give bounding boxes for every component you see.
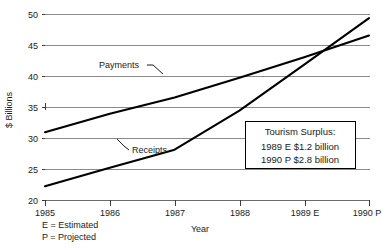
x-tick-label-1987: 1987: [165, 208, 185, 218]
callout-line-1989: 1989 E $1.2 billion: [261, 141, 339, 152]
series-label-payments: Payments: [99, 60, 140, 70]
y-axis-title: $ Billions: [4, 91, 14, 128]
x-tick-label-1990p: 1990 P: [353, 208, 382, 218]
x-tick-label-1985: 1985: [35, 208, 55, 218]
callout-line-1990: 1990 P $2.8 billion: [261, 154, 339, 165]
footnote-projected: P = Projected: [42, 232, 96, 242]
callout-title: Tourism Surplus:: [265, 126, 336, 137]
footnote-estimated: E = Estimated: [42, 220, 98, 230]
y-tick-labels: 50 45 40 35 30 25 20: [28, 10, 38, 206]
tourism-line-chart: 50 45 40 35 30 25 20 1985 1986 1987 1988…: [0, 0, 382, 248]
leader-line-payments: [147, 65, 163, 74]
x-tick-label-1988: 1988: [230, 208, 250, 218]
leader-line-receipts: [117, 139, 129, 150]
y-tick-label-45: 45: [28, 41, 38, 51]
x-tick-label-1989e: 1989 E: [291, 208, 320, 218]
series-label-receipts: Receipts: [132, 145, 168, 155]
y-tick-label-50: 50: [28, 10, 38, 20]
tourism-surplus-callout: Tourism Surplus: 1989 E $1.2 billion 199…: [246, 122, 356, 169]
y-tick-label-30: 30: [28, 134, 38, 144]
x-axis-title: Year: [191, 224, 209, 234]
y-tick-label-20: 20: [28, 196, 38, 206]
y-tick-label-35: 35: [28, 103, 38, 113]
x-tick-labels: 1985 1986 1987 1988 1989 E 1990 P: [35, 208, 381, 218]
x-tick-label-1986: 1986: [100, 208, 120, 218]
y-tick-label-25: 25: [28, 165, 38, 175]
series-line-payments: [45, 36, 369, 133]
chart-canvas: 50 45 40 35 30 25 20 1985 1986 1987 1988…: [0, 0, 382, 248]
y-tick-label-40: 40: [28, 72, 38, 82]
y-tickmarks: [42, 15, 46, 201]
